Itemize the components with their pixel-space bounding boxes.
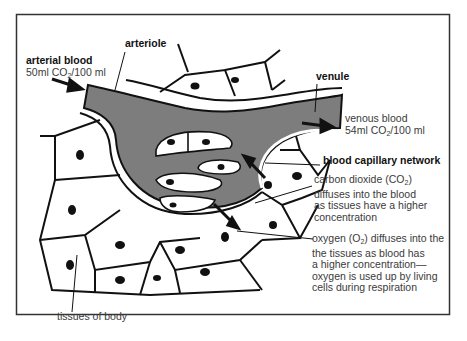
venous-blood-co2-value: 54ml CO2/100 ml [345,125,425,140]
venule-label: venule [316,71,349,83]
o2-diffusion-label: oxygen (O2) diffuses into the the tissue… [312,233,444,294]
arteriole-label: arteriole [125,38,166,50]
arterial-blood-co2-value: 50ml CO2/100 ml [26,67,106,82]
diagram-container: arteriole arterial blood 50ml CO2/100 ml… [0,0,467,341]
co2-diffusion-label: carbon dioxide (CO2) diffuses into the b… [314,174,427,223]
arterial-blood-label: arterial blood [26,55,93,67]
tissues-of-body-label: tissues of body [57,311,127,323]
venous-blood-label: venous blood [345,113,407,125]
arteriole-outer-wall [126,80,342,101]
capillary-network-label: blood capillary network [323,155,440,167]
